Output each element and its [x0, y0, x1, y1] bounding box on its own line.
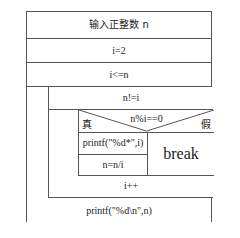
inner-loop-condition-block: n!=i: [49, 87, 213, 110]
input-statement-block: 输入正整数 n: [27, 12, 211, 39]
true-branch-column: printf("%d*",i) n=n/i: [79, 133, 148, 175]
divide-statement: n=n/i: [79, 155, 147, 175]
outer-loop-condition-block: i<=n: [27, 63, 211, 87]
inner-loop-body: n%i==0 真 假 printf("%d*",i) n=n/i break: [78, 110, 214, 176]
increment-statement-block: i++: [49, 176, 213, 198]
false-branch-column: break: [148, 133, 214, 175]
branch-region: printf("%d*",i) n=n/i break: [79, 133, 214, 175]
outer-loop-body: n!=i n%i==0 真 假 printf("%d*",i) n=n/i br…: [48, 87, 213, 198]
final-output-statement-block: printf("%d\n",n): [27, 198, 211, 223]
break-statement: break: [163, 145, 199, 163]
init-statement-block: i=2: [27, 39, 211, 63]
decision-true-label: 真: [82, 120, 92, 130]
ns-flowchart: 输入正整数 n i=2 i<=n n!=i n%i==0 真 假 printf(…: [26, 11, 212, 222]
print-factor-statement: printf("%d*",i): [79, 133, 147, 155]
decision-block: n%i==0 真 假: [79, 110, 214, 133]
decision-condition-label: n%i==0: [79, 114, 214, 124]
decision-false-label: 假: [201, 120, 211, 130]
